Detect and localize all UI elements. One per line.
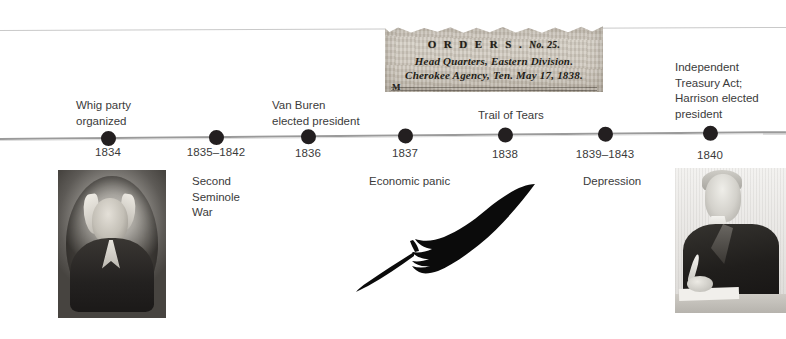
timeline-dot-1834[interactable]: [100, 131, 115, 146]
clipping-heading-number: No. 25.: [529, 40, 560, 50]
clipping-heading: O R D E R S . No. 25.: [385, 38, 603, 50]
clipping-body-text-lines: [391, 84, 597, 91]
timeline-dot-1838[interactable]: [497, 128, 512, 143]
quill-shaft: [356, 252, 414, 292]
timeline-page: O R D E R S . No. 25. Head Quarters, Eas…: [0, 0, 786, 339]
caption-independent-treasury-act: Independent Treasury Act; Harrison elect…: [675, 60, 779, 122]
caption-second-seminole-war: Second Seminole War: [192, 174, 270, 221]
clipping-line-2: Head Quarters, Eastern Division.: [385, 55, 603, 67]
caption-van-buren-elected: Van Buren elected president: [272, 98, 392, 129]
harrison-face: [705, 174, 741, 222]
timeline-axis: [0, 126, 786, 147]
timeline-axis-line: [0, 131, 786, 140]
caption-trail-of-tears: Trail of Tears: [478, 108, 588, 124]
year-label-1839-1843: 1839–1843: [576, 148, 634, 160]
caption-depression: Depression: [583, 174, 673, 190]
year-label-1835-1842: 1835–1842: [187, 146, 245, 158]
timeline-dot-1836[interactable]: [300, 129, 315, 144]
year-label-1838: 1838: [492, 148, 518, 160]
year-label-1836: 1836: [295, 147, 321, 159]
timeline-dot-1839-1843[interactable]: [597, 127, 612, 142]
clipping-heading-text: O R D E R S .: [428, 38, 524, 50]
caption-whig-party: Whig party organized: [76, 98, 168, 129]
clipping-line-3: Cherokee Agency, Ten. May 17, 1838.: [385, 69, 603, 81]
timeline-dot-1840[interactable]: [702, 126, 717, 141]
cherokee-removal-orders-clipping: O R D E R S . No. 25. Head Quarters, Eas…: [385, 22, 603, 92]
quill-vane: [412, 184, 535, 273]
year-label-1834: 1834: [95, 146, 121, 158]
harrison-hand: [687, 276, 713, 292]
quill-feather: [352, 182, 537, 294]
year-label-1837: 1837: [392, 147, 418, 159]
year-label-1840: 1840: [697, 149, 723, 161]
engraving-harrison-writing: [675, 168, 786, 313]
timeline-dot-1837[interactable]: [397, 128, 412, 143]
timeline-dot-1835-1842[interactable]: [208, 130, 223, 145]
daguerreotype-portrait-oval: [58, 170, 166, 318]
